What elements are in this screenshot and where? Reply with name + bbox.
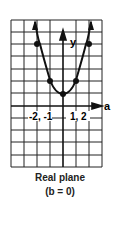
axes	[11, 30, 102, 167]
neg-tick-labels: -2, -1	[29, 111, 53, 122]
caption-subtitle: (b = 0)	[0, 186, 120, 197]
y-axis-label: y	[70, 36, 77, 48]
caption-title: Real plane	[0, 172, 120, 183]
pos-tick-labels: 1, 2	[70, 111, 87, 122]
x-axis-label: a	[104, 100, 111, 112]
